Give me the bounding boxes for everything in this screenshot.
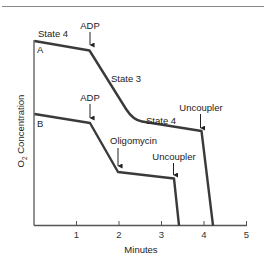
series-b-line <box>35 114 180 226</box>
x-tick-label-1: 1 <box>74 229 79 240</box>
x-axis-title: Minutes <box>124 244 158 255</box>
y-axis-title: O2 Concentration <box>15 95 28 168</box>
y-axis-title-o: O <box>15 160 26 167</box>
annotation-a-state3: State 3 <box>111 73 141 84</box>
annotation-a-uncoupler: Uncoupler <box>179 102 222 113</box>
annotation-a-state4-after: State 4 <box>146 115 176 126</box>
annotation-a-adp: ADP <box>80 20 100 31</box>
annotation-b-oligomycin: Oligomycin <box>110 135 157 146</box>
y-axis-title-rest: Concentration <box>15 95 26 157</box>
annotation-a-state4-initial: State 4 <box>38 28 68 39</box>
x-tick-label-5: 5 <box>244 229 249 240</box>
x-tick-label-2: 2 <box>116 229 121 240</box>
annotation-b-adp: ADP <box>80 92 100 103</box>
series-a-line <box>35 41 214 226</box>
x-tick-label-3: 3 <box>159 229 164 240</box>
chart: 1 2 3 4 5 Minutes O2 Concentration A B S… <box>0 0 266 268</box>
x-tick-labels: 1 2 3 4 5 <box>74 229 249 240</box>
series-a-label: A <box>37 44 44 55</box>
x-ticks <box>77 221 247 226</box>
annotation-b-uncoupler: Uncoupler <box>152 151 195 162</box>
x-tick-label-4: 4 <box>201 229 206 240</box>
series-b-label: B <box>37 118 43 129</box>
